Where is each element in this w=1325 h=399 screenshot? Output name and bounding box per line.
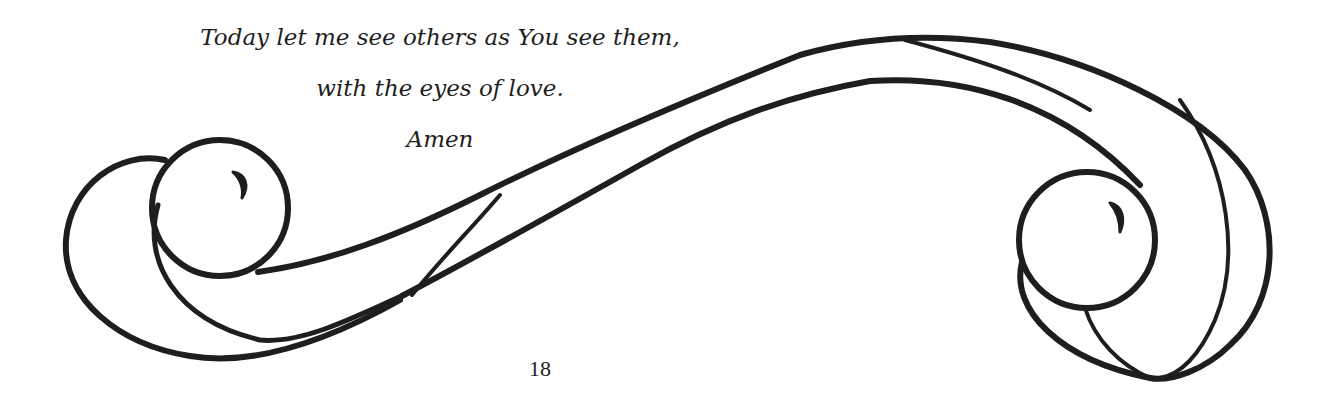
right-ball-highlight (1110, 203, 1123, 232)
book-page: Today let me see others as You see them,… (0, 0, 1325, 399)
right-lower-curl (1020, 262, 1150, 378)
prayer-line-1: Today let me see others as You see them, (180, 12, 700, 63)
prayer-text: Today let me see others as You see them,… (180, 12, 700, 165)
prayer-line-3: Amen (180, 114, 700, 165)
page-number: 18 (520, 356, 560, 382)
prayer-line-2: with the eyes of love. (180, 63, 700, 114)
right-ball (1019, 172, 1155, 308)
left-outer-curl (66, 158, 400, 358)
left-ball-highlight (233, 172, 246, 198)
right-top-connector (905, 40, 1090, 110)
